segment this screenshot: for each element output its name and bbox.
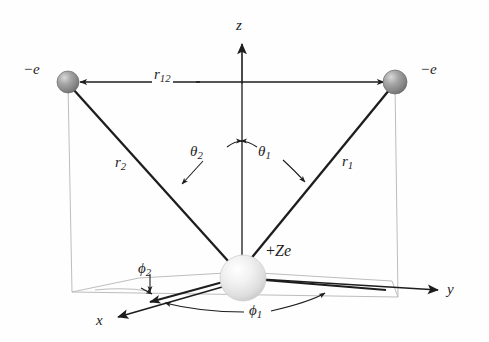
- xy-projections: [150, 279, 386, 302]
- y-axis-label: y: [447, 282, 454, 297]
- z-axis-label: z: [236, 18, 242, 33]
- r1-label: r1: [342, 154, 353, 171]
- phi1-label: ϕ1: [249, 303, 262, 320]
- theta1-leader: [283, 160, 305, 182]
- radius-vectors: [73, 89, 390, 272]
- r1-subscript: 1: [348, 159, 353, 171]
- figure-root: z y x −e −e r12 r1 r2 θ1 θ2 ϕ1 ϕ2 +Ze: [0, 0, 489, 342]
- xy-plane-right-slant: [392, 281, 398, 297]
- phi2-arc: [95, 289, 148, 291]
- r2-label: r2: [115, 155, 126, 172]
- theta2-arc: [227, 141, 242, 147]
- r2-subscript: 2: [121, 160, 126, 172]
- diagram-canvas: [0, 0, 489, 342]
- electron-right-sphere: [383, 70, 407, 94]
- r12-subscript: 12: [160, 72, 171, 84]
- phi1-subscript: 1: [257, 308, 262, 320]
- phi2-label: ϕ2: [138, 261, 151, 278]
- nucleus-charge-plus: +: [266, 242, 275, 259]
- r2-line: [73, 89, 238, 272]
- plane-left-edge: [68, 84, 72, 292]
- electron-right-label: −e: [420, 62, 437, 77]
- theta2-label: θ2: [190, 144, 203, 161]
- r1-projection: [252, 279, 386, 290]
- phi1-arc-left: [165, 303, 244, 312]
- theta1-marker: [241, 141, 305, 182]
- theta1-subscript: 1: [265, 149, 270, 161]
- electron-left-label: −e: [23, 62, 40, 77]
- theta1-label: θ1: [258, 144, 271, 161]
- theta1-arc: [241, 141, 257, 147]
- phi2-base: ϕ: [138, 260, 146, 276]
- plane-right-edge: [395, 84, 398, 297]
- phi1-base: ϕ: [249, 302, 257, 318]
- nucleus-charge-label: +Ze: [266, 243, 291, 259]
- theta2-subscript: 2: [197, 149, 202, 161]
- xy-plane-left-slant: [72, 278, 139, 292]
- nucleus-charge-value: Ze: [275, 242, 291, 259]
- electron-left-sphere: [57, 71, 79, 93]
- phi2-subscript: 2: [146, 266, 151, 278]
- r12-label: r12: [152, 67, 173, 84]
- theta2-leader: [182, 161, 203, 184]
- nucleus-sphere: [220, 255, 266, 301]
- r1-line: [240, 89, 390, 272]
- x-axis-label: x: [96, 313, 103, 328]
